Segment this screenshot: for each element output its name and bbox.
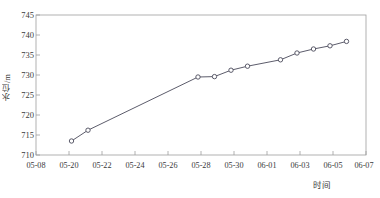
x-tick-label: 05-26 [158,161,177,170]
x-tick-label: 06-03 [290,161,309,170]
x-tick-label: 06-07 [354,161,373,170]
x-tick-label: 05-24 [125,161,144,170]
x-tick-label: 05-22 [92,161,111,170]
x-tick-label: 05-08 [26,161,45,170]
x-tick-label: 05-30 [224,161,243,170]
x-tick-label: 05-28 [191,161,210,170]
x-axis-tick-labels: 05-08 05-20 05-22 05-24 05-26 05-28 05-3… [0,0,380,198]
x-tick-label: 05-20 [59,161,78,170]
x-tick-label: 06-05 [323,161,342,170]
x-axis-title: 时间 [313,180,331,190]
chart-figure: 水位/m 745 740 735 730 725 720 715 710 [0,0,380,198]
x-tick-label: 06-01 [257,161,276,170]
